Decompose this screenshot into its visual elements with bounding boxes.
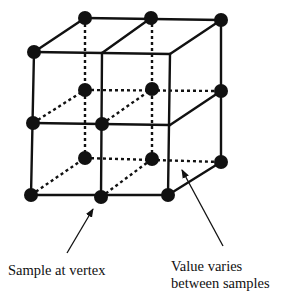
sample-dot-front-mid-middle: [95, 117, 109, 131]
label-value-varies-line1: Value varies: [171, 258, 270, 275]
label-value-varies: Value varies between samples: [171, 258, 270, 292]
sample-dot-back-bottom-right: [214, 155, 228, 169]
sample-dot-front-mid-left: [26, 116, 40, 130]
sample-dot-front-bottom-right: [161, 188, 175, 202]
depth-edge-top-left: [34, 18, 85, 52]
label-sample-at-vertex: Sample at vertex: [8, 262, 105, 279]
sample-dot-front-bottom-middle: [94, 190, 108, 204]
hidden-edges: [31, 18, 221, 197]
depth-edge-bottom-left: [31, 158, 85, 195]
sample-dot-back-bottom-left: [78, 151, 92, 165]
sample-dot-back-top-right: [214, 13, 228, 27]
sample-dot-front-bottom-left: [24, 188, 38, 202]
arrow-value-varies: [182, 170, 223, 246]
sample-dot-back-mid-middle: [145, 82, 159, 96]
depth-edge-top-right: [170, 20, 221, 54]
depth-edge-mid-middle: [102, 89, 152, 124]
sample-dot-back-top-left: [78, 11, 92, 25]
depth-edge-bottom-right: [168, 162, 221, 195]
depth-edge-mid-left: [33, 90, 85, 123]
depth-edge-mid-right: [170, 91, 221, 125]
sample-dot-back-mid-left: [78, 83, 92, 97]
sample-dot-back-top-middle: [144, 11, 158, 25]
label-value-varies-line2: between samples: [171, 275, 270, 292]
annotation-arrows: [67, 170, 223, 253]
arrow-sample-at-vertex: [67, 209, 93, 253]
sample-dot-front-top-left: [27, 45, 41, 59]
depth-edge-bottom-middle: [101, 159, 152, 197]
sample-dot-back-bottom-middle: [145, 152, 159, 166]
depth-edge-top-middle: [102, 18, 151, 53]
sample-dot-back-mid-right: [214, 84, 228, 98]
